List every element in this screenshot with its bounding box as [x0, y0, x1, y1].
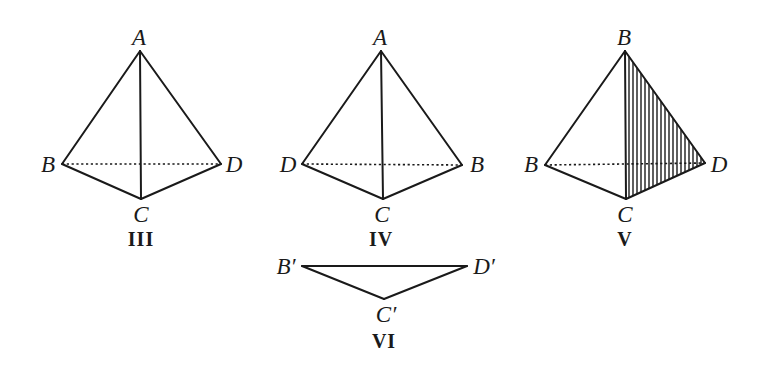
figure-iv: A D B C V IV	[279, 25, 484, 250]
vertex-label-left: B	[524, 152, 538, 177]
vertex-label-right: D	[225, 152, 243, 177]
edge-ad	[140, 51, 221, 164]
figure-iii: A B D C III	[41, 25, 243, 250]
edge-dc	[302, 164, 383, 199]
edge-ac	[140, 51, 141, 199]
shaded-face-hatching	[629, 57, 701, 198]
edge-ac	[381, 51, 383, 199]
vertex-label-right: D′	[472, 254, 496, 279]
vertex-label-right: B	[470, 152, 484, 177]
vertex-label-top: A	[371, 25, 388, 50]
figure-caption: VI	[372, 330, 396, 352]
edge-d-c	[384, 266, 467, 299]
edge-dc	[141, 164, 221, 199]
edge-left-bottom	[545, 165, 626, 199]
edge-top-bottom	[625, 51, 626, 199]
figure-caption: V	[617, 228, 632, 250]
edge-bc	[62, 164, 141, 199]
edge-ab	[62, 51, 140, 164]
figure-caption: III	[128, 228, 154, 250]
figure-vi: B′ D′ C′ VI	[276, 254, 495, 352]
edge-bc	[383, 165, 462, 199]
edge-top-left	[545, 51, 625, 165]
vertex-label-top: A	[130, 25, 147, 50]
vertex-label-right: D	[710, 152, 728, 177]
vertex-label-left: B′	[276, 254, 296, 279]
tetrahedron-diagram: A B D C III A D B C V IV B B D C V	[0, 0, 762, 371]
vertex-label-bottom: C′	[376, 302, 397, 327]
vertex-label-bottom: C	[133, 202, 149, 227]
edge-b-c	[302, 266, 384, 299]
figure-v: B B D C V	[524, 25, 728, 250]
vertex-label-top: B	[617, 25, 631, 50]
vertex-label-left: D	[279, 152, 297, 177]
vertex-label-left: B	[41, 152, 55, 177]
vertex-label-bottom: C	[374, 202, 390, 227]
edge-ab	[381, 51, 462, 165]
figure-caption: IV	[369, 228, 393, 250]
edge-ad	[302, 51, 381, 164]
vertex-label-bottom: C	[617, 202, 633, 227]
